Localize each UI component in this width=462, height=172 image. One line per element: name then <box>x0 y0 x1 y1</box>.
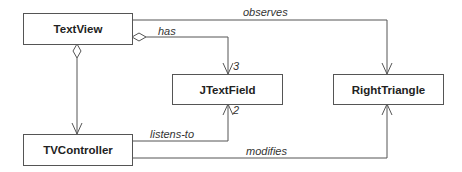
has-connector <box>146 37 228 74</box>
listens-to-label: listens-to <box>150 128 194 140</box>
has-label: has <box>158 25 176 37</box>
observes-label: observes <box>243 6 288 18</box>
class-tvcontroller: TVController <box>23 134 133 166</box>
class-textview-label: TextView <box>54 23 103 35</box>
has-aggregation-diamond-icon <box>132 33 146 41</box>
class-textview: TextView <box>23 13 133 45</box>
class-jtextfield: JTextField <box>172 74 283 105</box>
listens-to-multiplicity: 2 <box>233 104 239 116</box>
class-jtextfield-label: JTextField <box>199 84 255 96</box>
controller-aggregation-diamond-icon <box>73 44 81 58</box>
class-righttriangle-label: RightTriangle <box>352 84 425 96</box>
class-righttriangle: RightTriangle <box>333 74 444 105</box>
has-multiplicity: 3 <box>233 60 239 72</box>
modifies-label: modifies <box>246 145 287 157</box>
class-tvcontroller-label: TVController <box>43 144 113 156</box>
